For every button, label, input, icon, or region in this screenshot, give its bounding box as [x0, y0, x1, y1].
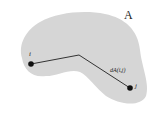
point-i-label: i [29, 50, 31, 58]
diagram-svg: A i j dA(i,j) [0, 0, 162, 114]
diagram-canvas: A i j dA(i,j) [0, 0, 162, 114]
point-i [28, 61, 34, 67]
distance-label: dA(i,j) [110, 67, 126, 74]
point-j-label: j [134, 82, 137, 90]
point-j [127, 85, 133, 91]
region-label: A [124, 8, 133, 22]
